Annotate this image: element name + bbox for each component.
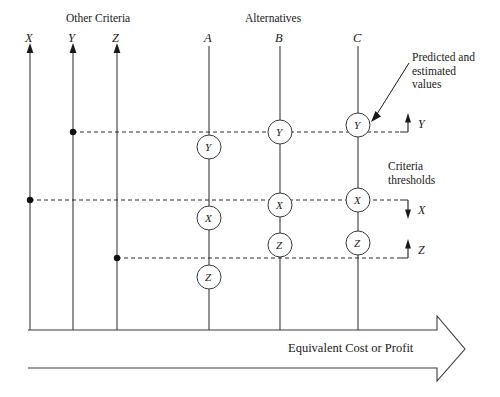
criteria-axes-group: [27, 43, 121, 330]
figure-canvas: Other Criteria Alternatives X Y Z A B C …: [0, 0, 500, 397]
criteria-axis-z: [114, 43, 121, 330]
axis-label-b: B: [275, 31, 283, 46]
annotation-criteria-thresholds: Criteria thresholds: [388, 160, 435, 187]
predicted-values-leader-arrow: [371, 63, 409, 122]
value-node-label: Y: [276, 126, 282, 139]
header-alternatives: Alternatives: [245, 12, 301, 26]
value-node-label: Z: [354, 237, 360, 250]
axis-label-x: X: [25, 31, 33, 46]
header-other-criteria: Other Criteria: [66, 12, 130, 26]
threshold-label-x: X: [418, 203, 425, 217]
value-node-label: X: [276, 199, 283, 212]
axis-label-y: Y: [68, 31, 75, 46]
value-node-label: Y: [354, 119, 360, 132]
value-node-label: X: [354, 194, 361, 207]
axis-label-a: A: [204, 31, 212, 46]
threshold-label-y: Y: [418, 117, 425, 131]
threshold-label-z: Z: [418, 243, 425, 257]
value-node-label: Y: [205, 141, 211, 154]
criteria-axis-y: [70, 43, 77, 330]
annotation-predicted-values: Predicted and estimated values: [412, 51, 475, 92]
alternative-axes-group: [209, 46, 358, 330]
value-nodes-group: [197, 113, 370, 289]
value-node-label: Z: [276, 239, 282, 252]
axis-label-c: C: [353, 31, 361, 46]
equivalent-cost-arrow-label: Equivalent Cost or Profit: [288, 341, 413, 356]
criteria-axis-x: [27, 43, 34, 330]
axis-label-z: Z: [112, 31, 119, 46]
value-node-label: X: [205, 212, 212, 225]
value-node-label: Z: [205, 271, 211, 284]
